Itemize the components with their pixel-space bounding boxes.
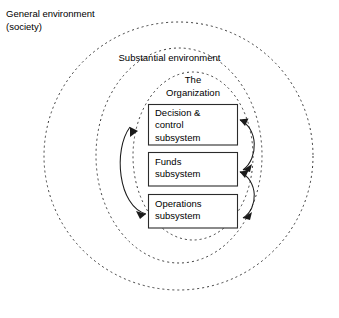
arrow-decision-to-funds — [240, 120, 254, 170]
substantial-environment-label: Substantial environment — [0, 52, 339, 65]
decision-control-subsystem-label: Decision & control subsystem — [155, 107, 237, 144]
organization-label: The Organization — [133, 74, 253, 99]
funds-subsystem-label: Funds subsystem — [155, 156, 237, 181]
systems-diagram: General environment (society) Substantia… — [0, 0, 339, 318]
arrow-funds-to-operations-head — [243, 212, 252, 220]
general-environment-label: General environment (society) — [6, 8, 95, 33]
arrow-funds-to-operations — [240, 172, 254, 218]
operations-subsystem-label: Operations subsystem — [155, 198, 237, 223]
